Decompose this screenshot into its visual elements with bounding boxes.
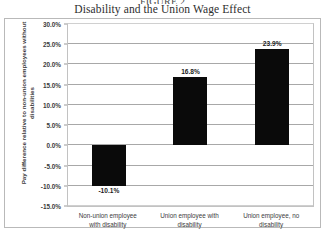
- y-tick-label: -5.0%: [44, 162, 61, 169]
- y-tick-label: -15.0%: [41, 203, 61, 210]
- x-category-label: Union employee, no disability: [230, 211, 312, 229]
- y-tick-label: -10.0%: [41, 182, 61, 189]
- bar-slot: 23.9%: [231, 24, 313, 206]
- y-tick-label: 5.0%: [46, 122, 61, 129]
- x-category-label: Non-union employee with disability: [67, 211, 149, 229]
- bar-value-label: -10.1%: [98, 187, 119, 194]
- y-tick-label: 10.0%: [43, 101, 61, 108]
- bar-slot: 16.8%: [150, 24, 232, 206]
- plot-area: -10.1%16.8%23.9%: [67, 23, 314, 207]
- x-axis-category-labels: Non-union employee with disability Union…: [67, 211, 314, 232]
- y-tick-label: 20.0%: [43, 61, 61, 68]
- y-axis-tick-labels: 30.0% 25.0% 20.0% 15.0% 10.0% 5.0% 0.0% …: [23, 23, 63, 207]
- bar-slot: -10.1%: [68, 24, 150, 206]
- bar[interactable]: [173, 77, 207, 145]
- bar-series: -10.1%16.8%23.9%: [68, 24, 313, 206]
- bar-value-label: 16.8%: [181, 68, 200, 75]
- y-tick-label: 0.0%: [46, 142, 61, 149]
- bar[interactable]: [255, 49, 289, 146]
- y-tick-label: 30.0%: [43, 21, 61, 28]
- bar-value-label: 23.9%: [263, 40, 282, 47]
- bar[interactable]: [92, 145, 126, 186]
- x-category-label: Union employee with disability: [149, 211, 231, 229]
- y-tick-label: 25.0%: [43, 41, 61, 48]
- chart-title: Disability and the Union Wage Effect: [0, 3, 325, 15]
- y-tick-label: 15.0%: [43, 81, 61, 88]
- chart-frame: Pay difference relative to non-union emp…: [4, 18, 321, 228]
